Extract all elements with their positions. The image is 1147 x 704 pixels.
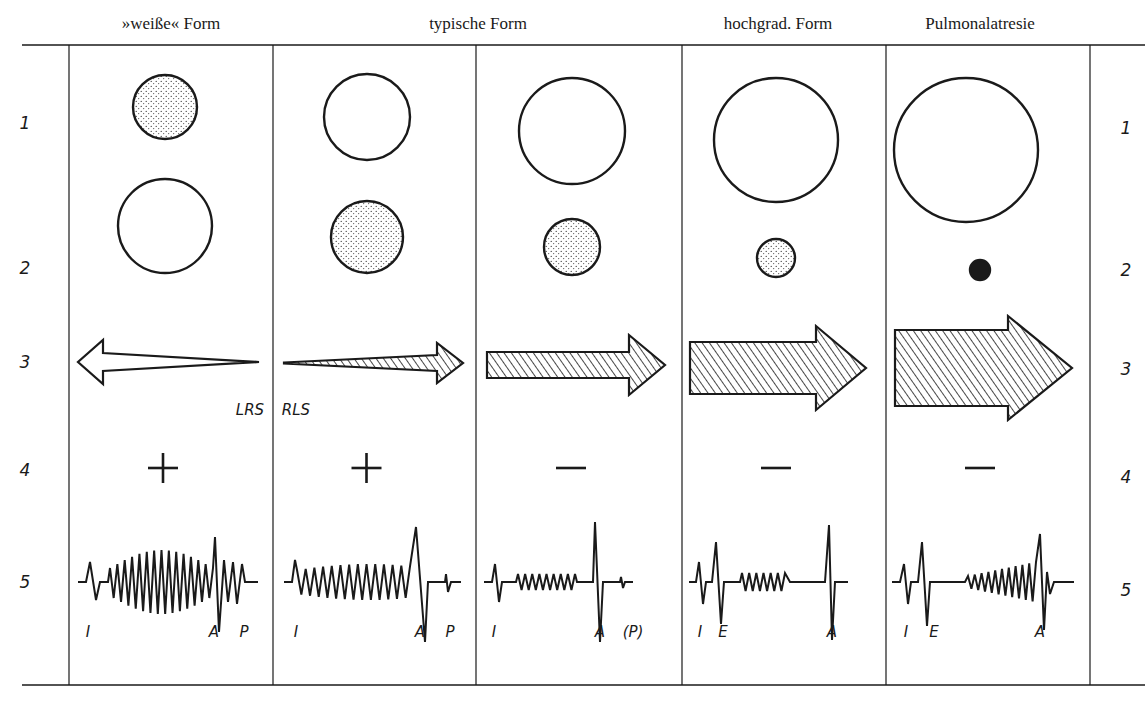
pcg-label-p1-i: I — [86, 623, 90, 641]
right-arrow-icon-2 — [284, 343, 463, 383]
pulmonary-circle-2 — [331, 201, 403, 273]
row-number-left-4: 4 — [20, 460, 31, 480]
fallot-spectrum-figure: »weiße« Form typische Form hochgrad. For… — [0, 0, 1147, 704]
row-number-right-1: 1 — [1121, 118, 1132, 138]
pcg-waveform-3 — [484, 522, 633, 642]
pcg-waveform-2 — [284, 527, 461, 642]
pcg-waveform-4 — [689, 525, 848, 640]
cyanosis-signs — [148, 453, 995, 483]
column-title-pulmonary-atresia: Pulmonalatresie — [925, 14, 1035, 34]
vessel-circles — [118, 74, 1038, 280]
column-title-white-form: »weiße« Form — [122, 14, 221, 34]
pcg-waveform-1 — [78, 537, 258, 632]
row-number-right-3: 3 — [1121, 359, 1132, 379]
row-number-right-4: 4 — [1121, 467, 1132, 487]
figure-canvas — [0, 0, 1147, 704]
pcg-label-p2-a: A — [415, 623, 425, 641]
shunt-arrows — [78, 316, 1072, 420]
row-number-left-3: 3 — [20, 352, 31, 372]
pulmonary-circle-4 — [757, 239, 795, 277]
pcg-waveform-5 — [892, 534, 1074, 630]
aorta-circle-1 — [133, 75, 197, 139]
shunt-label-rls: RLS — [282, 401, 310, 419]
row-number-right-2: 2 — [1121, 260, 1132, 280]
right-arrow-icon-4 — [690, 326, 866, 410]
pcg-label-p2-i: I — [294, 623, 298, 641]
row-number-right-5: 5 — [1121, 580, 1132, 600]
pcg-label-p1-p: P — [239, 623, 248, 641]
pcg-label-p4-i: I — [698, 623, 702, 641]
aorta-circle-5 — [894, 78, 1038, 222]
right-arrow-icon-5 — [895, 316, 1072, 420]
pcg-label-p5-a: A — [1035, 623, 1045, 641]
pcg-label-p5-i: I — [904, 623, 908, 641]
right-arrow-icon-3 — [487, 335, 665, 395]
pcg-label-p4-a: A — [827, 623, 837, 641]
pulmonary-circle-5 — [970, 260, 990, 280]
aorta-circle-2 — [324, 74, 410, 160]
column-title-typical-form: typische Form — [429, 14, 527, 34]
phonocardiograms — [78, 522, 1074, 642]
row-number-left-2: 2 — [20, 258, 31, 278]
row-number-left-5: 5 — [20, 572, 31, 592]
column-title-severe-form: hochgrad. Form — [724, 14, 833, 34]
pcg-label-p4-e: E — [718, 623, 727, 641]
pulmonary-circle-1 — [118, 179, 212, 273]
pulmonary-circle-3 — [544, 219, 600, 275]
pcg-label-p3-p: (P) — [623, 623, 644, 641]
row-number-left-1: 1 — [20, 113, 31, 133]
pcg-label-p3-i: I — [492, 623, 496, 641]
aorta-circle-4 — [714, 78, 838, 202]
pcg-label-p3-a: A — [595, 623, 605, 641]
aorta-circle-3 — [519, 78, 625, 184]
pcg-label-p1-a: A — [209, 623, 219, 641]
shunt-label-lrs: LRS — [236, 401, 264, 419]
pcg-label-p2-p: P — [445, 623, 454, 641]
pcg-label-p5-e: E — [929, 623, 938, 641]
left-arrow-icon-1 — [78, 340, 259, 384]
